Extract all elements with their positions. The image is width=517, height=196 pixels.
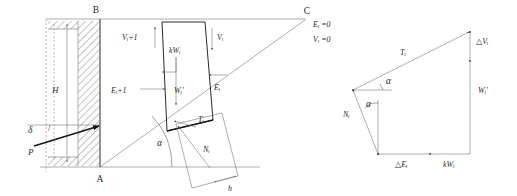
polygon-upper-alpha-arc <box>380 84 383 90</box>
wall-top-hatch-band <box>48 21 78 29</box>
point-label-C: C <box>304 6 310 16</box>
alpha-angle-arc-at-A <box>152 116 172 167</box>
thrust-label-P: P <box>27 147 34 157</box>
figure-root: B A C H δ P Vᵢ+1 Vᵢ kWᵢ Eᵢ+1 Eᵢ Wᵢ' Tᵢ N… <box>0 0 517 196</box>
label-Vi-plus-1: Vᵢ+1 <box>122 33 138 42</box>
point-label-A: A <box>97 174 104 184</box>
height-label-H: H <box>51 85 59 95</box>
label-h: h <box>228 184 232 193</box>
polygon-label-delta-Ei: △Eᵢ <box>395 160 407 169</box>
point-label-B: B <box>93 5 99 15</box>
polygon-vertex-top-right <box>469 31 471 33</box>
polygon-edge-Ti <box>353 32 469 90</box>
boundary-condition-V: Vᵢ =0 <box>313 35 331 44</box>
wall-bottom-hatch-band <box>48 157 78 166</box>
boundary-condition-E: Eᵢ =0 <box>312 20 331 29</box>
polygon-tick-kWi-deltaEi <box>429 153 431 155</box>
polygon-label-Wi: Wᵢ' <box>478 86 488 95</box>
polygon-label-delta-Vi: △Vᵢ <box>476 37 488 46</box>
polygon-label-kWi: kWᵢ <box>443 160 455 169</box>
polygon-label-alpha-upper: α <box>386 76 392 86</box>
wall-body-hatch <box>78 21 100 166</box>
label-Ei-plus-1: Eᵢ+1 <box>110 86 127 95</box>
soil-slice-element <box>162 22 213 131</box>
force-polygon-panel: Tᵢ △Vᵢ Wᵢ' kWᵢ △Eᵢ Nᵢ α α <box>342 31 488 169</box>
label-Vi: Vᵢ <box>217 33 223 42</box>
label-Ni-slice: Nᵢ <box>202 145 210 154</box>
delta-angle-arc <box>48 125 50 131</box>
polygon-label-Ni: Nᵢ <box>342 110 350 119</box>
polygon-label-Ti: Tᵢ <box>400 48 406 57</box>
label-kWi: kWᵢ <box>169 46 181 55</box>
delta-angle-label: δ <box>28 125 33 135</box>
label-Ei: Eᵢ <box>213 83 220 92</box>
polygon-tick-deltaVi-Wi <box>469 60 471 62</box>
label-Wi: Wᵢ' <box>174 86 184 95</box>
base-length-marker-h <box>214 176 236 182</box>
label-alpha-slice: α <box>157 138 163 148</box>
label-Ti-slice: Tᵢ <box>198 115 204 124</box>
wall-panel: B A C H δ P Vᵢ+1 Vᵢ kWᵢ Eᵢ+1 Eᵢ Wᵢ' Tᵢ N… <box>27 5 331 193</box>
retaining-wall-force-diagram: B A C H δ P Vᵢ+1 Vᵢ kWᵢ Eᵢ+1 Eᵢ Wᵢ' Tᵢ N… <box>0 0 517 196</box>
